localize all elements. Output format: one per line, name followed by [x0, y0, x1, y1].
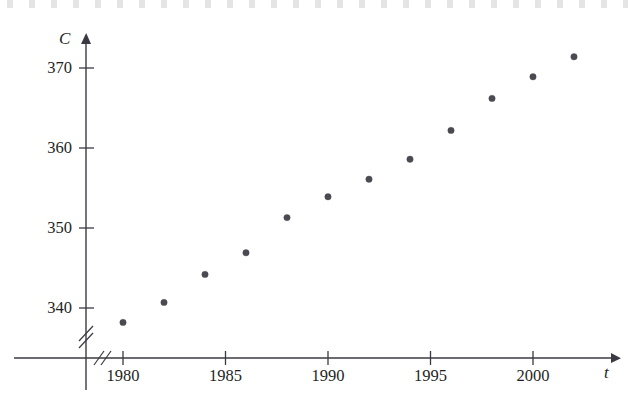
data-point	[489, 95, 495, 101]
data-point	[448, 127, 454, 133]
data-point	[571, 54, 577, 60]
x-axis-label: t	[604, 364, 609, 381]
data-point	[161, 299, 167, 305]
y-axis	[79, 33, 94, 390]
y-tick-label-340: 340	[18, 300, 72, 317]
data-point-series	[120, 54, 577, 326]
data-point	[530, 74, 536, 80]
x-tick-label-1985: 1985	[186, 368, 266, 385]
y-axis-arrow-icon	[81, 33, 91, 44]
x-tick-label-2000: 2000	[493, 368, 573, 385]
y-tick-label-360: 360	[18, 140, 72, 157]
data-point	[202, 271, 208, 277]
data-point	[243, 250, 249, 256]
plot-canvas	[0, 0, 628, 403]
data-point	[120, 319, 126, 325]
y-axis-label: C	[59, 30, 70, 47]
x-tick-label-1990: 1990	[288, 368, 368, 385]
y-tick-label-370: 370	[18, 60, 72, 77]
x-tick-label-1995: 1995	[391, 368, 471, 385]
scatter-chart: C t 370 360 350 340 1980 1985 1990 1995 …	[0, 0, 628, 403]
y-tick-label-350: 350	[18, 220, 72, 237]
x-axis-arrow-icon	[611, 353, 621, 363]
x-axis	[14, 351, 621, 365]
data-point	[284, 214, 290, 220]
data-point	[366, 176, 372, 182]
data-point	[325, 194, 331, 200]
x-tick-label-1980: 1980	[83, 368, 163, 385]
data-point	[407, 156, 413, 162]
